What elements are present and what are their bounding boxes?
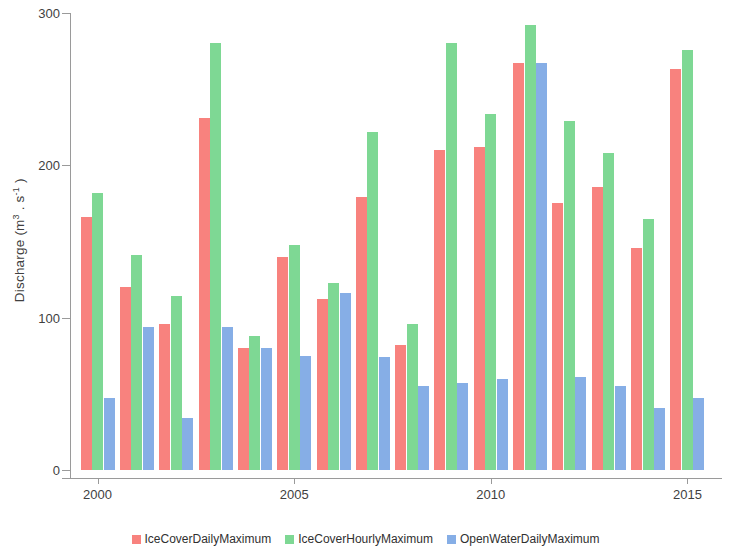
bar-2007-IceCoverHourlyMaximum	[367, 132, 378, 470]
bar-group-2015	[670, 13, 704, 470]
bar-2003-IceCoverDailyMaximum	[199, 118, 210, 470]
x-axis-tick	[98, 478, 99, 484]
bar-2013-IceCoverDailyMaximum	[592, 187, 603, 470]
x-axis-tick-label: 2015	[673, 487, 702, 502]
bar-group-2003	[199, 13, 233, 470]
bar-group-2007	[356, 13, 390, 470]
bar-2006-OpenWaterDailyMaximum	[340, 293, 351, 470]
bar-2005-IceCoverDailyMaximum	[277, 257, 288, 470]
x-axis-tick	[491, 478, 492, 484]
bar-2012-IceCoverDailyMaximum	[552, 203, 563, 470]
legend-swatch-openwater-daily	[447, 535, 456, 544]
bar-2011-IceCoverHourlyMaximum	[525, 25, 536, 470]
bar-2005-OpenWaterDailyMaximum	[300, 356, 311, 470]
bar-2008-IceCoverDailyMaximum	[395, 345, 406, 470]
bar-2014-IceCoverDailyMaximum	[631, 248, 642, 470]
bar-group-2002	[159, 13, 193, 470]
legend-label-1: IceCoverDailyMaximum	[145, 532, 272, 546]
bar-2004-IceCoverHourlyMaximum	[249, 336, 260, 470]
bar-group-2005	[277, 13, 311, 470]
bar-2010-OpenWaterDailyMaximum	[497, 379, 508, 470]
bar-2008-IceCoverHourlyMaximum	[407, 324, 418, 470]
bar-2000-OpenWaterDailyMaximum	[104, 398, 115, 470]
plot-area	[70, 13, 715, 470]
bar-group-2014	[631, 13, 665, 470]
x-axis-tick-label: 2000	[83, 487, 112, 502]
bar-group-2006	[317, 13, 351, 470]
bar-2001-OpenWaterDailyMaximum	[143, 327, 154, 470]
bar-group-2013	[592, 13, 626, 470]
x-axis-line	[62, 478, 722, 479]
chart-legend: IceCoverDailyMaximumIceCoverHourlyMaximu…	[0, 532, 731, 546]
bar-2009-IceCoverDailyMaximum	[434, 150, 445, 470]
bar-2010-IceCoverHourlyMaximum	[485, 114, 496, 470]
bar-2013-OpenWaterDailyMaximum	[615, 386, 626, 470]
y-axis-tick-label: 100	[20, 310, 60, 325]
bar-2013-IceCoverHourlyMaximum	[603, 153, 614, 470]
x-axis-tick	[687, 478, 688, 484]
legend-item-1[interactable]: IceCoverDailyMaximum	[132, 532, 272, 546]
bar-2015-OpenWaterDailyMaximum	[693, 398, 704, 470]
bar-2009-IceCoverHourlyMaximum	[446, 43, 457, 470]
bar-group-2000	[81, 13, 115, 470]
legend-item-3[interactable]: OpenWaterDailyMaximum	[447, 532, 600, 546]
bar-2002-OpenWaterDailyMaximum	[182, 418, 193, 470]
bar-group-2011	[513, 13, 547, 470]
bar-group-2004	[238, 13, 272, 470]
bar-2006-IceCoverDailyMaximum	[317, 299, 328, 470]
y-axis-tick	[62, 470, 70, 471]
bar-2004-IceCoverDailyMaximum	[238, 348, 249, 470]
bar-group-2001	[120, 13, 154, 470]
y-axis-tick	[62, 318, 70, 319]
bar-group-2010	[474, 13, 508, 470]
y-axis-tick	[62, 165, 70, 166]
bar-2005-IceCoverHourlyMaximum	[289, 245, 300, 470]
bar-2003-IceCoverHourlyMaximum	[210, 43, 221, 470]
legend-label-2: IceCoverHourlyMaximum	[298, 532, 433, 546]
x-axis-tick-label: 2010	[476, 487, 505, 502]
bar-2012-OpenWaterDailyMaximum	[575, 377, 586, 470]
bar-2007-IceCoverDailyMaximum	[356, 197, 367, 470]
bar-2000-IceCoverHourlyMaximum	[92, 193, 103, 470]
bar-2012-IceCoverHourlyMaximum	[564, 121, 575, 470]
legend-label-3: OpenWaterDailyMaximum	[460, 532, 600, 546]
y-axis-tick-label: 300	[20, 6, 60, 21]
legend-swatch-icecover-daily	[132, 535, 141, 544]
bar-2004-OpenWaterDailyMaximum	[261, 348, 272, 470]
bar-2003-OpenWaterDailyMaximum	[222, 327, 233, 470]
bar-2001-IceCoverHourlyMaximum	[131, 255, 142, 470]
y-axis-tick-labels: 0100200300	[8, 0, 60, 554]
bar-2015-IceCoverDailyMaximum	[670, 69, 681, 470]
bar-2001-IceCoverDailyMaximum	[120, 287, 131, 470]
bar-2014-OpenWaterDailyMaximum	[654, 408, 665, 470]
legend-swatch-icecover-hourly	[285, 535, 294, 544]
bar-2009-OpenWaterDailyMaximum	[457, 383, 468, 470]
bar-2007-OpenWaterDailyMaximum	[379, 357, 390, 470]
bar-2002-IceCoverHourlyMaximum	[171, 296, 182, 470]
bar-2014-IceCoverHourlyMaximum	[643, 219, 654, 470]
bar-2002-IceCoverDailyMaximum	[159, 324, 170, 470]
legend-item-2[interactable]: IceCoverHourlyMaximum	[285, 532, 433, 546]
bar-2008-OpenWaterDailyMaximum	[418, 386, 429, 470]
bar-2006-IceCoverHourlyMaximum	[328, 283, 339, 470]
y-axis-tick-label: 200	[20, 158, 60, 173]
discharge-bar-chart: Discharge (m3 . s-1 ) 0100200300 2000200…	[0, 0, 731, 554]
y-axis-tick-label: 0	[20, 463, 60, 478]
bar-2015-IceCoverHourlyMaximum	[682, 50, 693, 470]
bar-group-2012	[552, 13, 586, 470]
bar-2010-IceCoverDailyMaximum	[474, 147, 485, 470]
bar-group-2008	[395, 13, 429, 470]
bar-2011-IceCoverDailyMaximum	[513, 63, 524, 470]
bar-2011-OpenWaterDailyMaximum	[536, 63, 547, 470]
x-axis-tick-label: 2005	[280, 487, 309, 502]
bar-group-2009	[434, 13, 468, 470]
bar-2000-IceCoverDailyMaximum	[81, 217, 92, 470]
y-axis-tick	[62, 13, 70, 14]
x-axis-tick	[294, 478, 295, 484]
